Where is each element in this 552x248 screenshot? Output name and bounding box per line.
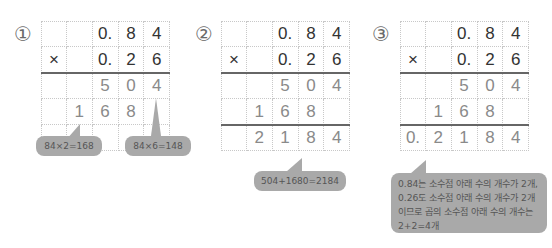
sum-rule (221, 124, 350, 126)
grid-cell: 8 (477, 21, 503, 47)
product-rule (400, 72, 529, 74)
grid-cell: 0. (93, 21, 119, 47)
grid-cell: 2 (298, 47, 324, 73)
grid-cell: 0 (118, 73, 144, 99)
grid-cell: × (221, 47, 247, 73)
grid-cell: 8 (298, 125, 324, 151)
grid-cell (41, 73, 67, 99)
grid-cell: × (400, 47, 426, 73)
grid-cell (67, 47, 93, 73)
grid-cell: 2 (247, 125, 273, 151)
callout-text: 84×2=168 (44, 141, 93, 151)
callout-84x2: 84×2=168 (36, 136, 102, 156)
grid-cell: 0. (400, 125, 426, 151)
grid-cell (221, 73, 247, 99)
grid-cell (503, 99, 529, 125)
grid-cell: 1 (426, 99, 452, 125)
step-number-2: ② (195, 24, 213, 44)
grid-cell: 1 (452, 125, 478, 151)
grid-cell: 4 (324, 125, 350, 151)
grid-cell: 0. (93, 47, 119, 73)
grid-cell: 0. (452, 47, 478, 73)
grid-cell: 4 (503, 21, 529, 47)
grid-cell (247, 21, 273, 47)
grid-cell: 5 (452, 73, 478, 99)
callout-84x6: 84×6=148 (125, 136, 191, 156)
grid-cell: 6 (93, 99, 119, 125)
grid-cell (400, 21, 426, 47)
grid-cell: 4 (144, 21, 170, 47)
grid-cell (324, 99, 350, 125)
grid-cell (67, 21, 93, 47)
grid-cell: 5 (93, 73, 119, 99)
grid-cell: 2 (426, 125, 452, 151)
grid-cell: 0. (452, 21, 478, 47)
grid-cell (221, 125, 247, 151)
callout-text: 84×6=148 (133, 141, 182, 151)
sum-rule (400, 124, 529, 126)
grid-cell (426, 21, 452, 47)
grid-cell: 8 (477, 125, 503, 151)
grid-cell (400, 73, 426, 99)
callout-line: 0.26도 소수점 아래 수의 개수가 2개 (398, 191, 540, 205)
grid-cell: 8 (477, 99, 503, 125)
grid-cell (426, 73, 452, 99)
grid-cell: 0. (273, 47, 299, 73)
step-number-3: ③ (372, 24, 390, 44)
grid-cell: 0 (298, 73, 324, 99)
product-rule (41, 72, 170, 74)
grid-cell: 6 (144, 47, 170, 73)
grid-cell: 2 (118, 47, 144, 73)
grid-cell: 0. (273, 21, 299, 47)
grid-cell: 2 (477, 47, 503, 73)
step-number-1: ① (14, 24, 32, 44)
callout-text: 504+1680=2184 (261, 176, 339, 186)
grid-cell (247, 47, 273, 73)
grid-cell: 8 (118, 99, 144, 125)
grid-cell: 6 (273, 99, 299, 125)
grid-cell (221, 99, 247, 125)
grid-cell (426, 47, 452, 73)
callout-decimal-explanation: 0.84는 소수점 아래 수의 개수가 2개, 0.26도 소수점 아래 수의 … (391, 173, 547, 233)
grid-cell: 8 (298, 21, 324, 47)
grid-cell: 1 (273, 125, 299, 151)
grid-cell: 0 (477, 73, 503, 99)
grid-cell (221, 21, 247, 47)
grid-cell (247, 73, 273, 99)
grid-cell: 6 (324, 47, 350, 73)
grid-cell (67, 73, 93, 99)
grid-cell: 8 (118, 21, 144, 47)
grid-cell: 1 (247, 99, 273, 125)
grid-cell (41, 21, 67, 47)
grid-cell: 4 (503, 73, 529, 99)
grid-cell: 5 (273, 73, 299, 99)
grid-cell: 4 (324, 73, 350, 99)
grid-cell: 4 (324, 21, 350, 47)
callout-line: 2+2=4개 (398, 219, 540, 233)
grid-cell: 6 (452, 99, 478, 125)
grid-cell (400, 99, 426, 125)
product-rule (221, 72, 350, 74)
grid-cell: 4 (503, 125, 529, 151)
grid-cell: 8 (298, 99, 324, 125)
callout-line: 0.84는 소수점 아래 수의 개수가 2개, (398, 177, 540, 191)
grid-cell: × (41, 47, 67, 73)
grid-cell: 6 (503, 47, 529, 73)
callout-line: 이므로 곱의 소수점 아래 수의 개수는 (398, 205, 540, 219)
callout-tail (148, 96, 164, 138)
callout-sum: 504+1680=2184 (254, 171, 346, 191)
